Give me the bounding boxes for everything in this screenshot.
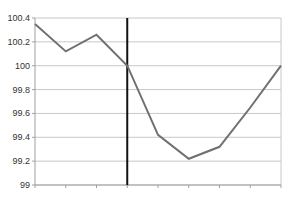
series-line [35, 24, 281, 159]
y-tick-label: 99.8 [12, 85, 30, 95]
y-tick-label: 99.4 [12, 132, 30, 142]
y-tick-label: 100 [15, 61, 30, 71]
y-axis-tick-labels: 100.4100.210099.899.699.499.299 [7, 13, 30, 190]
y-tick-label: 100.2 [7, 37, 30, 47]
y-tick-label: 100.4 [7, 13, 30, 23]
gridlines [32, 18, 281, 185]
y-tick-label: 99.6 [12, 108, 30, 118]
line-chart: 100.4100.210099.899.699.499.299 [0, 0, 295, 200]
y-tick-label: 99.2 [12, 156, 30, 166]
y-tick-label: 99 [20, 180, 30, 190]
